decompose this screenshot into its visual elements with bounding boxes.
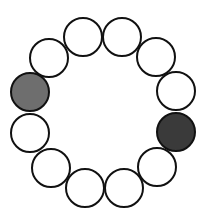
circle-lower-left <box>32 149 70 187</box>
circle-right-upper <box>157 72 195 110</box>
circle-left-lower <box>11 114 49 152</box>
circle-top-left <box>64 18 102 56</box>
circle-ring-diagram <box>0 0 208 220</box>
circle-lower-right <box>138 148 176 186</box>
circle-right-lower-dark <box>157 113 195 151</box>
circle-bottom-left <box>66 169 104 207</box>
circle-bottom-right <box>105 169 143 207</box>
circle-left-upper-gray <box>11 73 49 111</box>
circle-upper-right <box>137 38 175 76</box>
circle-upper-left <box>30 39 68 77</box>
circle-top-right <box>103 18 141 56</box>
